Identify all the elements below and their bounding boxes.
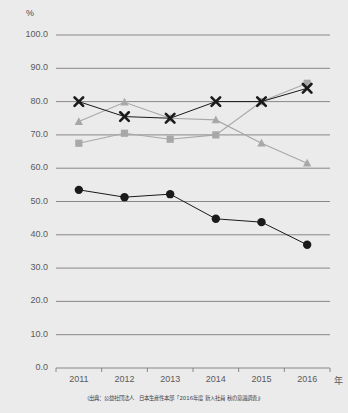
y-axis-tick-label: 30.0 [4,262,48,272]
x-axis-unit-label: 年 [334,374,343,387]
y-axis-tick-label: 0.0 [4,362,48,372]
x-axis-tick-label: 2013 [148,374,192,384]
data-point-circle [212,215,220,223]
series-line [79,190,307,245]
series-series-circle-dark [75,186,312,249]
y-axis-tick-label: 90.0 [4,62,48,72]
x-tick-marks [56,368,330,372]
x-axis-tick-label: 2015 [240,374,284,384]
series-line [79,102,307,163]
y-axis-tick-label: 60.0 [4,162,48,172]
y-axis-tick-label: 70.0 [4,129,48,139]
y-axis-tick-label: 100.0 [4,29,48,39]
x-axis-tick-label: 2016 [285,374,329,384]
data-point-circle [303,241,311,249]
data-point-circle [120,193,128,201]
series-series-square-gray [75,80,311,147]
data-point-circle [257,218,265,226]
y-axis-tick-label: 80.0 [4,96,48,106]
data-point-circle [166,190,174,198]
gridlines [56,35,330,368]
chart-container: % 100.090.080.070.060.050.040.030.020.01… [0,0,348,413]
data-point-square [121,130,128,137]
data-point-triangle [75,117,83,125]
series-line [79,88,307,118]
data-point-square [167,136,174,143]
y-axis-tick-label: 10.0 [4,329,48,339]
series-series-triangle-gray [75,98,312,167]
data-point-square [75,140,82,147]
x-axis-tick-label: 2014 [194,374,238,384]
y-axis-tick-label: 20.0 [4,295,48,305]
x-axis-tick-label: 2012 [103,374,147,384]
y-axis-tick-label: 50.0 [4,196,48,206]
data-point-triangle [303,159,311,167]
series-series-x-dark [75,84,312,123]
line-chart-plot-area [0,0,348,413]
source-caption: (出典：公益社団法人 日本生産性本部「2016年度 新入社員 秋の意識調査」) [0,394,348,402]
x-axis-tick-label: 2011 [57,374,101,384]
data-point-square [212,131,219,138]
data-point-circle [75,186,83,194]
data-point-triangle [257,139,265,147]
y-axis-tick-label: 40.0 [4,229,48,239]
